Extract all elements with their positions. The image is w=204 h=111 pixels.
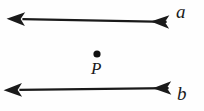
geometry-figure: a b P xyxy=(0,0,204,111)
line-b-label: b xyxy=(177,84,187,103)
line-b-stroke xyxy=(19,88,168,90)
intersection-point-dot xyxy=(93,50,100,57)
line-a-label: a xyxy=(176,2,186,21)
intersecting-lines-svg xyxy=(0,0,204,111)
point-p-label: P xyxy=(91,60,101,77)
line-a-stroke xyxy=(22,19,166,22)
